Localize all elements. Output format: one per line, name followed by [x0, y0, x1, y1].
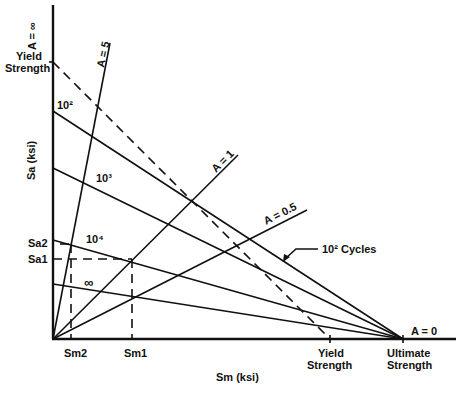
sm2-label: Sm2 [64, 347, 87, 359]
x-axis-title: Sm (ksi) [216, 371, 259, 383]
yield-y-label-2: Strength [5, 62, 51, 74]
callout-leader [286, 249, 318, 258]
yield-y-label-1: Yield [16, 50, 42, 62]
ratio-line-a1 [53, 155, 238, 339]
sm1-label: Sm1 [124, 347, 147, 359]
ultimate-x-label-2: Strength [387, 359, 433, 371]
sa2-label: Sa2 [28, 237, 48, 249]
cycle-label-1e3: 10³ [96, 172, 112, 184]
yield-x-label-1: Yield [318, 347, 344, 359]
a-inf-label: A = ∞ [26, 22, 38, 50]
a05-label: A = 0.5 [261, 200, 298, 227]
callout-label: 10² Cycles [322, 243, 376, 255]
cycle-label-1e2: 10² [57, 99, 73, 111]
y-axis-title: Sa (ksi) [25, 141, 37, 180]
yield-x-label-2: Strength [307, 359, 353, 371]
sa1-label: Sa1 [28, 253, 48, 265]
a0-label: A = 0 [411, 325, 437, 337]
ultimate-x-label-1: Ultimate [387, 347, 430, 359]
goodman-diagram: A = ∞ A = 5 A = 1 A = 0.5 Sa (ksi) Yield… [0, 0, 462, 394]
a5-label: A = 5 [94, 40, 111, 68]
cycle-label-1e4: 10⁴ [86, 233, 104, 245]
cycle-label-inf: ∞ [84, 275, 93, 290]
cycle-line-1e2 [53, 111, 403, 339]
